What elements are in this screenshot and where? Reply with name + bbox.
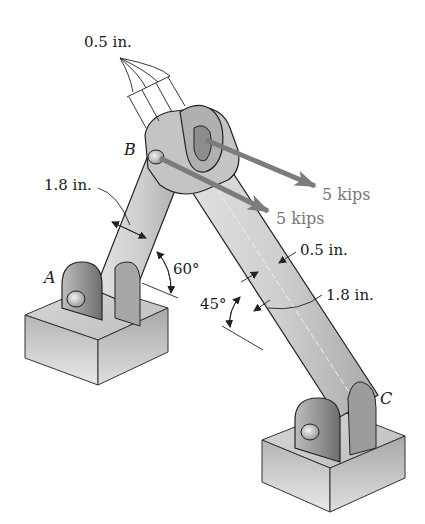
frame-diagram: 0.5 in. B 1.8 in. A 60° 45° 0.5 in. 1.8 … <box>0 0 425 524</box>
dim-label-pin-thickness: 0.5 in. <box>84 35 132 50</box>
point-label-a: A <box>44 270 56 286</box>
load-label-lower: 5 kips <box>276 211 325 227</box>
dim-label-bc-width: 1.8 in. <box>326 288 374 303</box>
angle-label-60: 60° <box>173 262 200 277</box>
point-label-b: B <box>124 142 136 158</box>
point-label-c: C <box>380 391 392 407</box>
dim-label-ab-width: 1.8 in. <box>44 178 92 193</box>
load-label-upper: 5 kips <box>322 187 371 203</box>
diagram-drawing <box>0 0 425 524</box>
angle-label-45: 45° <box>200 297 227 312</box>
dim-label-bc-thickness: 0.5 in. <box>300 243 348 258</box>
angle-45 <box>222 297 263 350</box>
